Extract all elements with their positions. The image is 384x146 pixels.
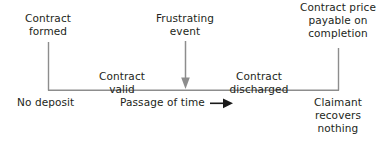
label-contract-discharged: Contract discharged <box>207 70 311 96</box>
label-frustrating-event: Frustrating event <box>145 12 225 38</box>
label-claimant-recovers-nothing: Claimant recovers nothing <box>298 96 378 135</box>
label-no-deposit: No deposit <box>17 96 97 109</box>
right-arrow-icon <box>210 98 233 108</box>
label-contract-formed: Contract formed <box>8 12 88 38</box>
down-arrow-icon <box>181 41 190 89</box>
frustration-timeline-diagram: Contract formed Frustrating event Contra… <box>0 0 384 146</box>
label-passage-of-time: Passage of time <box>120 96 208 109</box>
label-contract-valid: Contract valid <box>85 70 159 96</box>
label-contract-price-payable: Contract price payable on completion <box>292 1 384 40</box>
